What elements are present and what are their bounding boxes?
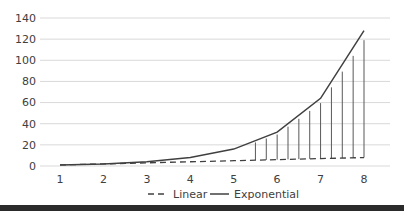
legend: Linear Exponential — [148, 188, 299, 201]
y-tick-label: 20 — [22, 139, 36, 152]
y-tick-label: 80 — [22, 75, 36, 88]
bottom-border — [0, 205, 404, 211]
legend-exponential-label: Exponential — [234, 188, 299, 201]
y-tick-label: 140 — [15, 12, 36, 25]
gridlines — [40, 18, 390, 166]
y-tick-label: 100 — [15, 54, 36, 67]
x-tick-label: 5 — [230, 173, 237, 186]
y-tick-label: 60 — [22, 96, 36, 109]
y-axis-labels: 0 20 40 60 80 100 120 140 — [15, 12, 36, 173]
y-tick-label: 40 — [22, 118, 36, 131]
y-tick-label: 120 — [15, 33, 36, 46]
y-tick-label: 0 — [29, 160, 36, 173]
x-tick-label: 7 — [317, 173, 324, 186]
x-tick-label: 8 — [361, 173, 368, 186]
x-axis-labels: 1 2 3 4 5 6 7 8 — [57, 173, 368, 186]
x-tick-label: 1 — [57, 173, 64, 186]
line-chart: 0 20 40 60 80 100 120 140 1 2 3 4 5 6 7 … — [0, 0, 404, 205]
x-tick-label: 6 — [274, 173, 281, 186]
legend-linear-label: Linear — [173, 188, 208, 201]
drop-lines — [255, 40, 364, 160]
x-tick-label: 4 — [187, 173, 194, 186]
x-tick-label: 3 — [143, 173, 150, 186]
x-tick-label: 2 — [100, 173, 107, 186]
